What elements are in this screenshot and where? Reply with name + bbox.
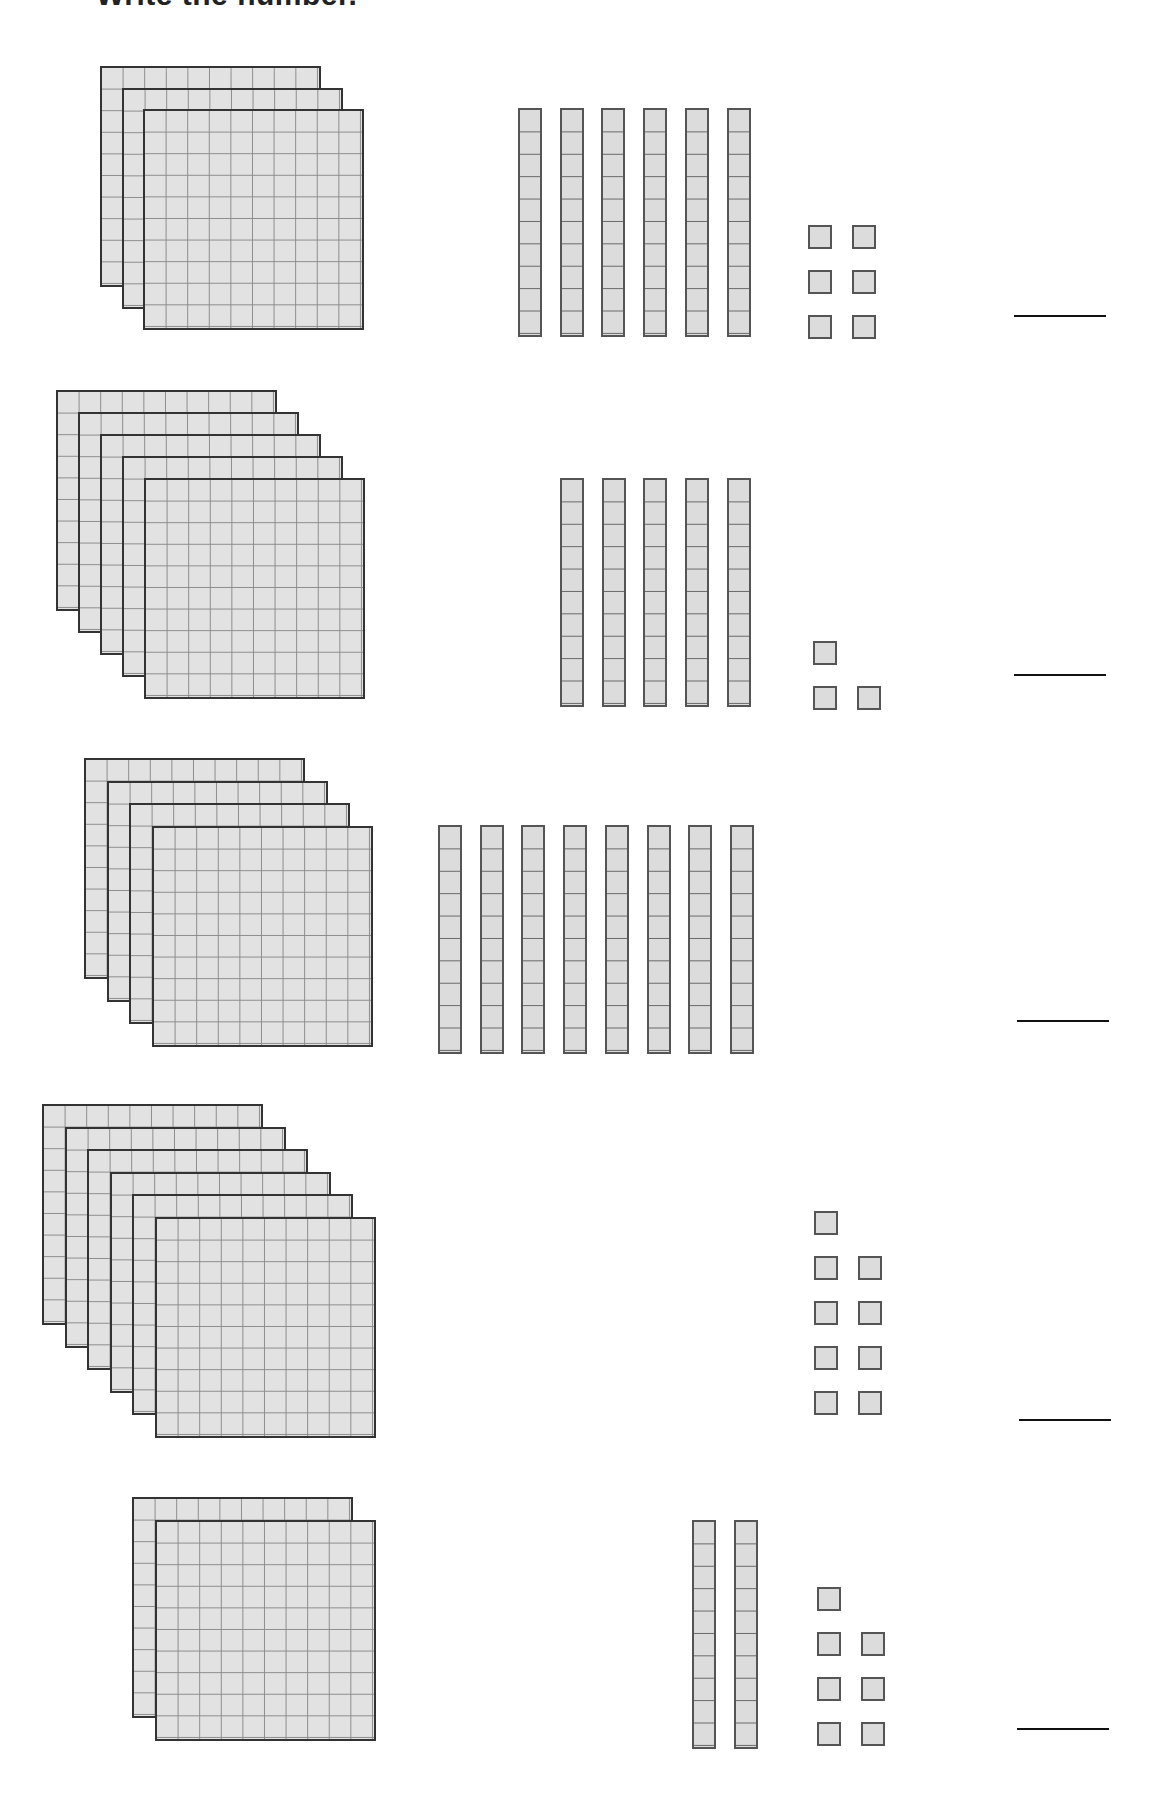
tens-rod [518,108,542,337]
ones-unit [852,315,876,339]
tens-rod [727,478,751,707]
ones-unit [814,1211,838,1235]
hundreds-flat [152,826,373,1047]
answer-blank-2[interactable] [1014,674,1106,676]
ones-unit [852,270,876,294]
ones-unit [813,686,837,710]
ones-unit [808,315,832,339]
tens-rod [521,825,545,1054]
tens-rod [560,478,584,707]
tens-rod [692,1520,716,1749]
answer-blank-1[interactable] [1014,315,1106,317]
tens-rod [601,108,625,337]
ones-unit [808,270,832,294]
worksheet-title: Write the number. [96,0,357,12]
tens-rod [643,478,667,707]
ones-unit [814,1346,838,1370]
ones-unit [817,1677,841,1701]
tens-rod [602,478,626,707]
tens-rod [560,108,584,337]
tens-rod [727,108,751,337]
ones-unit [817,1722,841,1746]
ones-unit [861,1677,885,1701]
ones-unit [817,1632,841,1656]
answer-blank-3[interactable] [1017,1020,1109,1022]
ones-unit [861,1722,885,1746]
ones-unit [814,1301,838,1325]
tens-rod [563,825,587,1054]
tens-rod [643,108,667,337]
ones-unit [857,686,881,710]
answer-blank-4[interactable] [1019,1419,1111,1421]
hundreds-flat [155,1217,376,1438]
ones-unit [858,1301,882,1325]
ones-unit [861,1632,885,1656]
hundreds-flat [155,1520,376,1741]
hundreds-flat [144,478,365,699]
tens-rod [734,1520,758,1749]
hundreds-flat [143,109,364,330]
tens-rod [605,825,629,1054]
tens-rod [438,825,462,1054]
ones-unit [817,1587,841,1611]
ones-unit [814,1391,838,1415]
ones-unit [858,1391,882,1415]
tens-rod [480,825,504,1054]
ones-unit [814,1256,838,1280]
ones-unit [808,225,832,249]
ones-unit [858,1256,882,1280]
answer-blank-5[interactable] [1017,1728,1109,1730]
tens-rod [647,825,671,1054]
ones-unit [852,225,876,249]
tens-rod [685,108,709,337]
tens-rod [730,825,754,1054]
ones-unit [813,641,837,665]
tens-rod [688,825,712,1054]
tens-rod [685,478,709,707]
ones-unit [858,1346,882,1370]
